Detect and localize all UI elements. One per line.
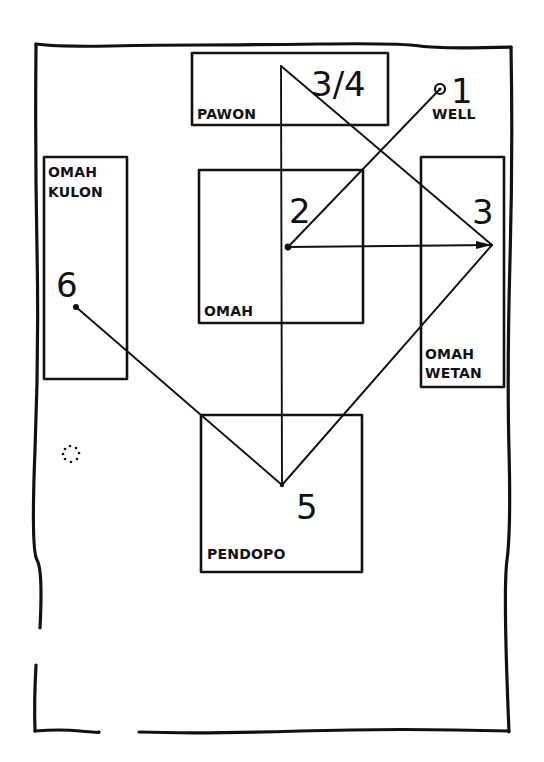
outer-wall-left-lower: [35, 665, 36, 731]
outer-wall-left-upper: [33, 44, 41, 628]
step-3-number: 3: [472, 192, 494, 232]
omah-label: OMAH: [204, 303, 253, 319]
step-numbers: 1 2 3 3/4 5 6: [56, 64, 494, 527]
step-1-number: 1: [451, 71, 473, 111]
step-2-number: 2: [289, 191, 311, 231]
circulation-paths: [73, 66, 492, 487]
outer-wall-bottom-left: [35, 730, 99, 732]
path-5-to-6: [76, 307, 282, 485]
compound-plan-diagram: PAWON OMAH OMAH KULON OMAH WETAN PENDOPO…: [0, 0, 544, 762]
outer-wall-bottom-right: [139, 730, 509, 733]
step-2-dot: [285, 244, 292, 251]
pendopo-label: PENDOPO: [207, 546, 286, 562]
step-3-4-number: 3/4: [311, 64, 366, 104]
step-5-dot: [280, 483, 284, 487]
omah-kulon-label-line1: OMAH: [48, 164, 97, 180]
outer-wall-top: [36, 44, 511, 48]
omah-kulon-label-line2: KULON: [48, 184, 103, 200]
pawon-label: PAWON: [197, 106, 256, 122]
outer-wall-right: [505, 47, 511, 732]
path-2-to-3: [288, 245, 492, 247]
dotted-circle-marker: [62, 445, 81, 464]
step-5-number: 5: [296, 487, 318, 527]
omah-wetan-label-line2: WETAN: [425, 365, 482, 381]
step-6-number: 6: [56, 265, 78, 305]
omah-wetan-label-line1: OMAH: [425, 346, 474, 362]
path-3-4-to-5: [281, 66, 282, 485]
